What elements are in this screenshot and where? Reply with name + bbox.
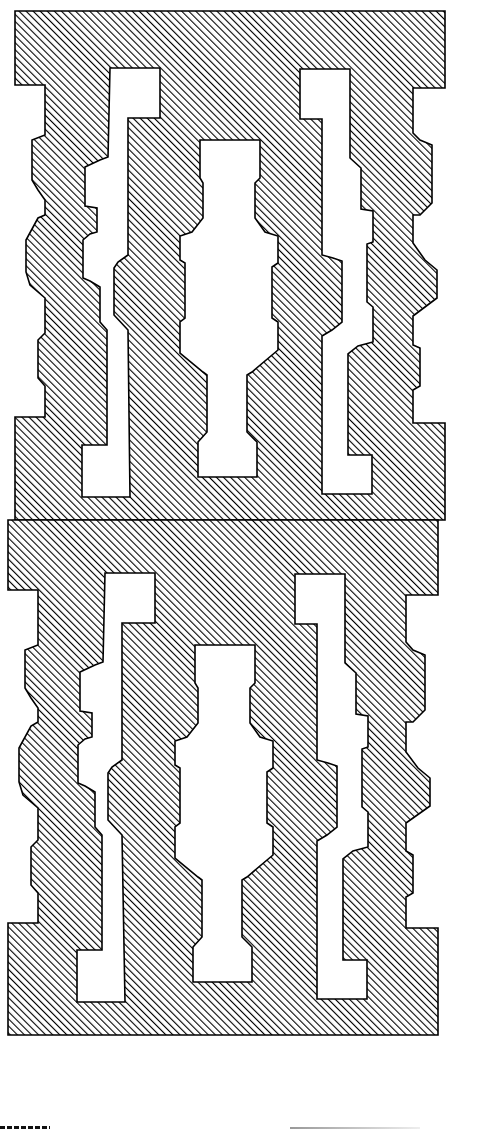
lower-unit	[8, 520, 438, 1035]
upper-unit	[15, 11, 445, 520]
hatched-cross-section-diagram	[0, 0, 496, 1129]
